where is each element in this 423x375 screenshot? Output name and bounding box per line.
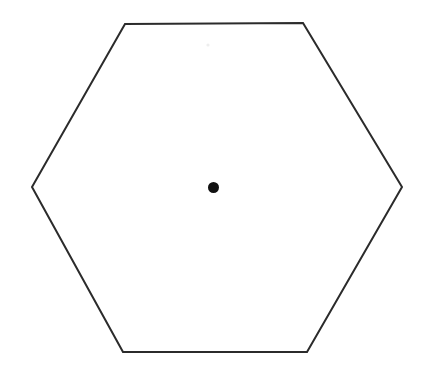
center-dot [208,182,219,193]
figure-canvas [0,0,423,375]
scan-speck [206,43,209,46]
hexagon-figure-svg [0,0,423,375]
